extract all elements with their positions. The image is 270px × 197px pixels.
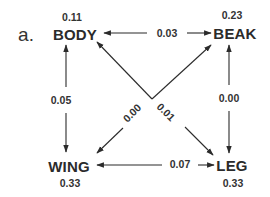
node-beak-value: 0.23 [222,10,242,21]
edge-beak-leg-value: 0.00 [218,93,240,104]
node-body: BODY [53,27,97,42]
node-body-value: 0.11 [62,12,82,23]
node-wing: WING [48,159,90,174]
node-leg-value: 0.33 [223,178,243,189]
edge-body-beak-value: 0.03 [156,28,178,39]
edge-wing-beak [97,45,211,153]
node-leg: LEG [216,158,247,173]
panel-label: a. [18,25,34,44]
node-wing-value: 0.33 [60,178,80,189]
node-beak: BEAK [213,26,256,41]
edge-body-wing-value: 0.05 [50,95,72,106]
edge-wing-leg-value: 0.07 [169,159,191,170]
diagram-canvas: a. 0.11 BODY 0.23 BEAK WING 0.33 LEG 0.3… [0,0,270,197]
